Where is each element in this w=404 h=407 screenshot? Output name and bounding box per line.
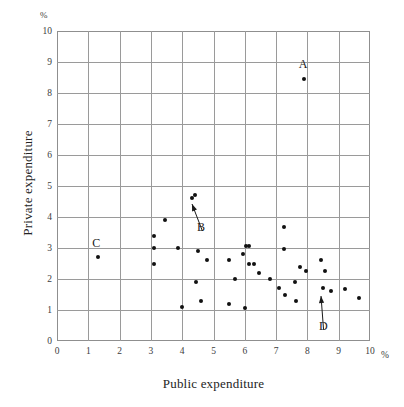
y-axis-tick-label: 6 [30, 150, 52, 160]
data-point [304, 269, 308, 273]
x-axis-tick-label: 6 [235, 346, 255, 357]
x-axis-tick-label: 0 [47, 346, 67, 357]
y-axis-tick-label: 0 [30, 336, 52, 346]
x-axis-tick-label: 1 [78, 346, 98, 357]
data-point [323, 269, 327, 273]
x-axis-tick-label: 2 [110, 346, 130, 357]
y-axis-tick-label: 5 [30, 181, 52, 191]
x-axis-tick-label: 4 [172, 346, 192, 357]
gridline-horizontal [57, 186, 370, 187]
gridline-horizontal [57, 155, 370, 156]
y-axis-tick-label: 2 [30, 274, 52, 284]
x-axis-unit-label: % [381, 350, 389, 360]
data-point [252, 262, 256, 266]
y-axis-tick-labels: 012345678910 [28, 31, 52, 341]
x-axis-tick-label: 3 [141, 346, 161, 357]
x-axis-tick-label: 10 [360, 346, 380, 357]
data-point [282, 247, 286, 251]
y-axis-tick-label: 4 [30, 212, 52, 222]
data-point [227, 302, 231, 306]
annotation-label-c: C [92, 237, 100, 249]
data-point [196, 249, 200, 253]
data-point [152, 234, 156, 238]
gridline-horizontal [57, 93, 370, 94]
gridline-horizontal [57, 279, 370, 280]
plot-area: ABCD [57, 31, 370, 341]
data-point [176, 246, 180, 250]
y-axis-tick-label: 9 [30, 57, 52, 67]
data-point [268, 277, 272, 281]
gridline-horizontal [57, 124, 370, 125]
data-point [152, 246, 156, 250]
y-axis-tick-label: 8 [30, 88, 52, 98]
data-point [257, 271, 261, 275]
y-axis-tick-label: 10 [30, 26, 52, 36]
data-point [243, 306, 247, 310]
data-point [293, 280, 297, 284]
x-axis-tick-label: 7 [266, 346, 286, 357]
x-axis-tick-label: 8 [297, 346, 317, 357]
y-axis-tick-label: 3 [30, 243, 52, 253]
scatter-plot-figure: % Private expenditure 012345678910 ABCD … [0, 0, 404, 407]
gridline-horizontal [57, 62, 370, 63]
data-point [199, 299, 203, 303]
data-point [282, 225, 286, 229]
y-axis-unit-label: % [40, 10, 48, 20]
x-axis-tick-label: 9 [329, 346, 349, 357]
annotation-arrow-b [184, 196, 210, 239]
gridline-horizontal [57, 248, 370, 249]
annotation-arrow-d [313, 288, 332, 338]
data-point [343, 287, 347, 291]
y-axis-tick-label: 1 [30, 305, 52, 315]
data-point [298, 265, 302, 269]
y-axis-tick-label: 7 [30, 119, 52, 129]
x-axis-tick-labels: 012345678910 [57, 346, 370, 360]
annotation-label-a: A [299, 58, 308, 70]
x-axis-title: Public expenditure [57, 376, 370, 392]
x-axis-tick-label: 5 [204, 346, 224, 357]
data-point [152, 262, 156, 266]
gridline-horizontal [57, 217, 370, 218]
